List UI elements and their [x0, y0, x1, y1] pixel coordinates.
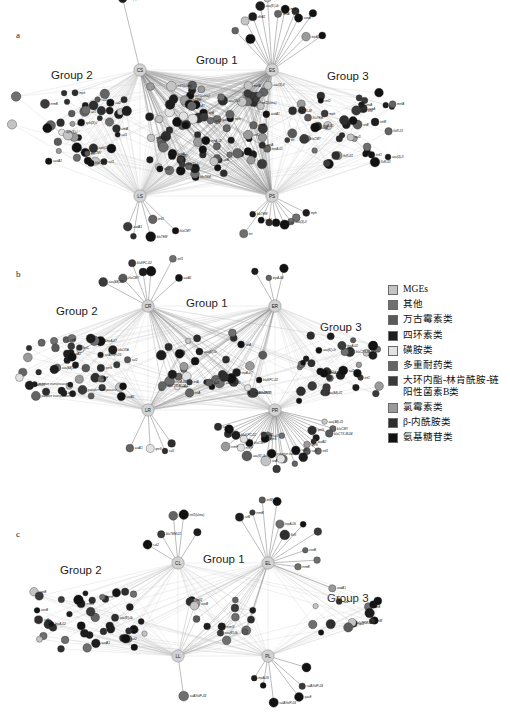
svg-text:aadA1: aadA1	[271, 112, 280, 116]
svg-text:aac(44)-01: aac(44)-01	[328, 420, 343, 424]
svg-text:tetO: tetO	[325, 99, 331, 103]
legend-item-label: 万古霉素类	[403, 313, 453, 325]
svg-text:aac(6')-Ib: aac(6')-Ib	[120, 616, 133, 620]
svg-text:qnrS: qnrS	[317, 428, 324, 432]
svg-text:tetC: tetC	[364, 376, 370, 380]
svg-text:blaCMY: blaCMY	[337, 427, 349, 431]
svg-text:aph(3')-I: aph(3')-I	[86, 121, 98, 125]
svg-text:sul1: sul1	[349, 369, 355, 373]
svg-text:blaTEM: blaTEM	[157, 235, 168, 239]
legend-swatch-icon	[388, 403, 398, 413]
svg-text:vanA: vanA	[321, 126, 328, 130]
svg-text:vanB: vanB	[41, 608, 48, 612]
legend-swatch-icon	[388, 433, 398, 443]
svg-text:tnpA-01: tnpA-01	[156, 136, 167, 140]
legend-item-label: 其他	[403, 298, 423, 310]
svg-text:ermG: ermG	[227, 625, 235, 629]
svg-text:aac(6')-Ib: aac(6')-Ib	[281, 221, 294, 225]
legend-item: 其他	[388, 298, 506, 310]
svg-text:tet: tet	[249, 232, 253, 236]
svg-text:sul1: sul1	[311, 449, 317, 453]
svg-text:blaKPC-02: blaKPC-02	[241, 433, 256, 437]
svg-text:blaCTX-M-04: blaCTX-M-04	[167, 384, 186, 388]
legend-swatch-icon	[388, 418, 398, 428]
legend-item: 氨基糖苷类	[388, 431, 506, 443]
svg-text:intI1(clinic): intI1(clinic)	[177, 84, 192, 88]
svg-text:LS: LS	[137, 194, 143, 199]
svg-text:blaCMY: blaCMY	[254, 441, 266, 445]
svg-text:sul2: sul2	[228, 373, 234, 377]
svg-text:intI1(clinic): intI1(clinic)	[190, 513, 205, 517]
svg-text:tetM: tetM	[273, 221, 279, 225]
svg-text:sul1: sul1	[214, 381, 220, 385]
svg-text:tnpA-01: tnpA-01	[311, 35, 322, 39]
svg-text:sulA/folP-03: sulA/folP-03	[306, 684, 323, 688]
svg-text:aadA2: aadA2	[329, 371, 338, 375]
svg-text:mexF: mexF	[106, 595, 115, 599]
svg-text:blaTEM: blaTEM	[313, 116, 324, 120]
svg-text:blaTEM: blaTEM	[257, 212, 268, 216]
svg-text:tnpA-04: tnpA-04	[273, 276, 284, 280]
legend-swatch-icon	[388, 300, 398, 310]
svg-text:sul1: sul1	[108, 160, 114, 164]
svg-text:mefA: mefA	[253, 84, 260, 88]
svg-text:strA: strA	[245, 343, 251, 347]
svg-text:tetM: tetM	[376, 619, 382, 623]
svg-text:vanB: vanB	[373, 605, 380, 609]
svg-text:sulA/folP-03: sulA/folP-03	[190, 694, 207, 698]
svg-text:tetA: tetA	[195, 391, 201, 395]
svg-text:ermG: ermG	[86, 602, 94, 606]
svg-text:aadA1: aadA1	[53, 159, 62, 163]
svg-text:tetA: tetA	[193, 380, 199, 384]
svg-text:tnpA-07: tnpA-07	[242, 371, 253, 375]
legend-item-label: MGEs	[403, 283, 428, 295]
svg-text:tetM: tetM	[266, 498, 272, 502]
svg-text:vanB: vanB	[201, 602, 208, 606]
svg-text:strB: strB	[245, 515, 251, 519]
legend-swatch-icon	[388, 331, 398, 341]
legend-swatch-icon	[388, 315, 398, 325]
svg-text:ES: ES	[269, 68, 275, 73]
svg-text:sul2: sul2	[153, 543, 159, 547]
svg-text:cmlA: cmlA	[366, 103, 373, 107]
svg-text:aac(3)-II: aac(3)-II	[295, 220, 307, 224]
svg-text:mefA: mefA	[397, 102, 404, 106]
svg-text:aac(6')-Ib: aac(6')-Ib	[323, 348, 336, 352]
svg-text:blaKPC-02: blaKPC-02	[137, 261, 152, 265]
svg-text:intI1: intI1	[177, 257, 183, 261]
svg-text:tetO: tetO	[158, 217, 164, 221]
svg-text:ermB: ermB	[256, 511, 263, 515]
svg-text:sul3: sul3	[164, 167, 170, 171]
panel-c-network: sul2blaTEM-01ermGintI1(clinic)strBermBte…	[0, 506, 510, 721]
legend-item-label: 大环内酯-林肯酰胺-链阳性菌素B类	[403, 374, 506, 397]
svg-text:blaCMY: blaCMY	[180, 229, 192, 233]
svg-text:qacE: qacE	[222, 118, 230, 122]
svg-text:floR-01: floR-01	[393, 129, 403, 133]
svg-text:PR: PR	[272, 408, 279, 413]
svg-text:vanA: vanA	[304, 16, 311, 20]
legend-item-label: 氯霉素类	[403, 401, 443, 413]
svg-text:mph: mph	[329, 112, 335, 116]
legend-item: 万古霉素类	[388, 313, 506, 325]
svg-text:catA1: catA1	[184, 276, 192, 280]
svg-text:ER: ER	[272, 304, 279, 309]
svg-text:aac(44)-01: aac(44)-01	[62, 366, 77, 370]
svg-text:ermG: ermG	[179, 514, 187, 518]
svg-text:mph: mph	[79, 91, 85, 95]
svg-text:sul2: sul2	[115, 101, 121, 105]
svg-text:aadA2: aadA2	[223, 425, 232, 429]
svg-text:strA: strA	[272, 459, 278, 463]
svg-text:sul2: sul2	[131, 637, 137, 641]
svg-text:putative transposase: putative transposase	[276, 452, 306, 456]
svg-text:aac(6')-Ib: aac(6')-Ib	[225, 631, 238, 635]
legend-item: 磺胺类	[388, 344, 506, 356]
svg-text:sul1: sul1	[245, 152, 251, 156]
svg-text:blaCTX-M-04: blaCTX-M-04	[356, 350, 375, 354]
legend-item: β-内酰胺类	[388, 416, 506, 428]
svg-text:tnpA-01: tnpA-01	[272, 147, 283, 151]
svg-text:strB: strB	[223, 158, 229, 162]
svg-text:putative transposase: putative transposase	[87, 388, 117, 392]
svg-text:blaCMY: blaCMY	[310, 137, 322, 141]
svg-text:floR: floR	[291, 533, 297, 537]
svg-text:sul1: sul1	[355, 135, 361, 139]
